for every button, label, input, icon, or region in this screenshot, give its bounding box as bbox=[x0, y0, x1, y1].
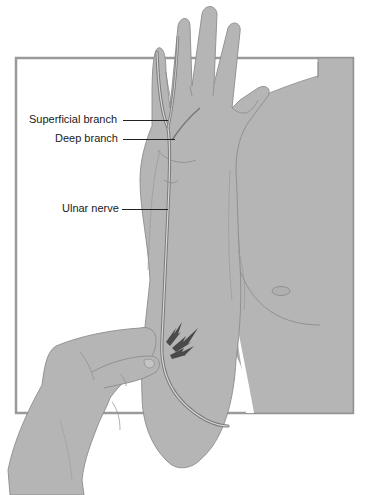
leader-ulnar-nerve bbox=[122, 209, 168, 210]
leader-deep-branch bbox=[123, 139, 175, 140]
label-superficial-branch: Superficial branch bbox=[29, 113, 117, 126]
leader-superficial-branch bbox=[123, 120, 168, 121]
nipple-mark bbox=[272, 287, 290, 296]
faint-caption-strip bbox=[14, 22, 334, 28]
ulnar-nerve-illustration: Superficial branch Deep branch Ulnar ner… bbox=[0, 0, 367, 495]
label-ulnar-nerve: Ulnar nerve bbox=[62, 202, 119, 215]
illustration-canvas bbox=[0, 0, 367, 495]
label-deep-branch: Deep branch bbox=[55, 132, 118, 145]
